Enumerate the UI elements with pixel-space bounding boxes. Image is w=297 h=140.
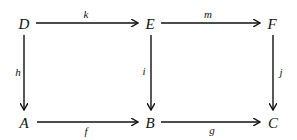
node-f: F <box>267 17 276 32</box>
label-f: f <box>84 126 87 137</box>
label-i: i <box>142 66 145 77</box>
label-j: j <box>279 67 282 78</box>
label-m: m <box>204 9 212 20</box>
node-d: D <box>19 17 30 32</box>
node-e: E <box>145 17 154 32</box>
label-k: k <box>84 9 89 20</box>
commutative-diagram: D E F A B C k m h i j f g <box>0 0 297 140</box>
label-h: h <box>15 67 21 78</box>
label-g: g <box>209 125 215 136</box>
node-b: B <box>145 116 154 131</box>
node-c: C <box>268 116 278 131</box>
node-a: A <box>19 116 28 131</box>
